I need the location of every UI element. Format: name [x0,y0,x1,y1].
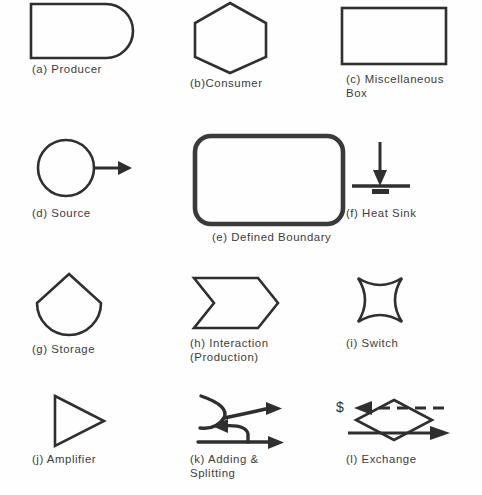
legend-item-switch: (i) Switch [332,270,482,390]
interaction-chevron-shape [186,270,306,336]
legend-row: (j) Amplifier (k) Adding & Splitting [0,390,482,495]
legend-item-adding-splitting: (k) Adding & Splitting [180,390,332,495]
legend-item-exchange: $ (l) Exchange [332,390,482,495]
consumer-symbol-box [186,0,332,76]
legend-item-heat-sink: (f) Heat Sink [332,130,482,270]
legend-item-consumer: (b)Consumer [180,0,332,130]
legend-item-producer: (a) Producer [0,0,180,130]
legend-caption-consumer: (b)Consumer [186,76,263,90]
switch-symbol-box [332,270,482,336]
symbol-legend-diagram: (a) Producer (b)Consumer (c) Miscellaneo… [0,0,482,495]
adding-splitting-symbol-box [186,390,332,452]
amplifier-symbol-box [28,390,180,452]
legend-item-source: (d) Source [0,130,180,270]
legend-caption-exchange: (l) Exchange [332,452,417,466]
legend-caption-producer: (a) Producer [28,62,102,76]
storage-symbol-box [28,270,180,342]
legend-caption-amplifier: (j) Amplifier [28,452,96,466]
exchange-symbol-box: $ [332,390,482,452]
consumer-hexagon-shape [186,0,286,76]
legend-caption-storage: (g) Storage [28,342,95,356]
legend-caption-adding-splitting: (k) Adding & Splitting [186,452,259,480]
source-symbol-box [28,130,180,206]
switch-concave-square-shape [332,270,462,336]
legend-item-defined-boundary: (e) Defined Boundary [180,130,332,270]
legend-caption-source: (d) Source [28,206,91,220]
producer-symbol-box [28,0,180,62]
interaction-symbol-box [186,270,332,336]
source-circle-arrow-shape [28,130,138,206]
legend-caption-interaction: (h) Interaction (Production) [186,336,269,364]
legend-item-interaction: (h) Interaction (Production) [180,270,332,390]
amplifier-triangle-shape [28,390,138,452]
legend-item-miscellaneous-box: (c) Miscellaneous Box [332,0,482,130]
miscellaneous-rectangle-shape [332,0,462,72]
exchange-dollar-label: $ [336,399,344,415]
legend-caption-defined-boundary: (e) Defined Boundary [186,230,331,244]
defined-boundary-rounded-rect-shape [186,130,356,230]
storage-tank-shape [28,270,138,342]
legend-caption-heat-sink: (f) Heat Sink [332,206,416,220]
legend-row: (a) Producer (b)Consumer (c) Miscellaneo… [0,0,482,130]
legend-row: (d) Source (e) Defined Boundary (f) Heat… [0,130,482,270]
legend-caption-switch: (i) Switch [332,336,398,350]
adding-splitting-arrows-shape [186,390,306,452]
legend-caption-miscellaneous-box: (c) Miscellaneous Box [332,72,444,100]
heat-sink-symbol-box [332,130,482,206]
legend-item-amplifier: (j) Amplifier [0,390,180,495]
producer-bullet-shape [28,0,146,62]
exchange-diamond-shape: $ [332,390,464,452]
defined-boundary-symbol-box [186,130,332,230]
legend-item-storage: (g) Storage [0,270,180,390]
miscellaneous-box-symbol-box [332,0,482,72]
heat-sink-ground-arrow-shape [332,130,462,206]
legend-row: (g) Storage (h) Interaction (Production)… [0,270,482,390]
